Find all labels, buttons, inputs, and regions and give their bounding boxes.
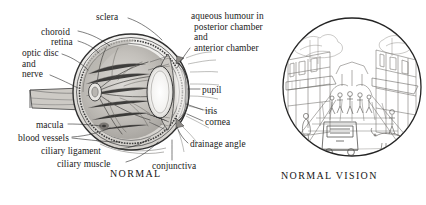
label-cornea: cornea xyxy=(205,117,230,128)
label-aqueous-humour-line-3: and xyxy=(194,32,208,43)
label-drainage-angle: drainage angle xyxy=(190,139,246,150)
label-choroid: choroid xyxy=(41,27,70,38)
label-aqueous-humour-line-2: posterior chamber xyxy=(194,22,263,33)
caption-normal-vision: NORMAL VISION xyxy=(281,170,378,181)
label-macula: macula xyxy=(36,120,63,131)
optic-nerve-stub xyxy=(30,88,84,110)
label-ciliary-ligament: ciliary ligament xyxy=(41,146,101,157)
label-nerve: nerve xyxy=(22,69,43,80)
label-ciliary-muscle: ciliary muscle xyxy=(57,159,111,170)
label-aqueous-humour-line-4: anterior chamber xyxy=(194,43,259,54)
eye-anatomy-figure: sclera choroid retina optic disc and ner… xyxy=(0,0,426,205)
cornea-region xyxy=(175,52,219,152)
label-blood-vessels: blood vessels xyxy=(18,133,69,144)
label-retina: retina xyxy=(51,37,73,48)
label-sclera: sclera xyxy=(96,12,118,23)
label-optic-disc-and: and xyxy=(22,59,36,70)
label-pupil: pupil xyxy=(202,85,222,96)
label-optic-disc: optic disc xyxy=(22,48,59,59)
caption-normal: NORMAL xyxy=(110,168,161,179)
label-iris: iris xyxy=(205,106,217,117)
label-aqueous-humour-line-1: aqueous humour in xyxy=(191,11,264,22)
normal-vision-scene xyxy=(283,18,421,156)
